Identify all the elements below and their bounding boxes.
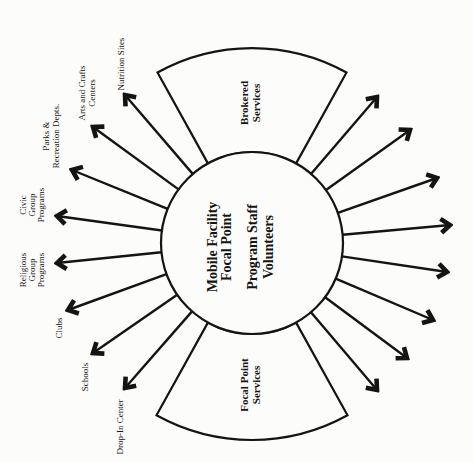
label-line: Centers — [87, 79, 97, 107]
service-diagram: Mobile Facility Focal Point Program Staf… — [0, 0, 473, 462]
label-parks-recreation: Parks & Recreation Depts. — [41, 104, 61, 168]
label-line: Recreation Depts. — [51, 104, 61, 168]
arrow-civic-group — [57, 216, 162, 231]
arrow-arts-crafts — [93, 127, 179, 189]
center-line-1: Mobile Facility — [205, 202, 220, 293]
wedge-bottom-line-2: Services — [250, 365, 262, 404]
arrow-right — [325, 297, 407, 358]
label-drop-in-center: Drop-In Center — [115, 399, 125, 454]
arrow-right — [338, 178, 437, 213]
label-line: Programs — [36, 252, 46, 287]
center-line-2: Focal Point — [219, 213, 234, 281]
label-schools: Schools — [80, 362, 90, 391]
arrow-right — [326, 130, 410, 190]
label-nutrition-sites: Nutrition Sites — [116, 37, 126, 90]
label-line: Arts and Crafts — [77, 65, 87, 120]
center-line-4: Volunteers — [261, 214, 276, 279]
label-line: Drop-In Center — [115, 399, 125, 454]
label-line: Nutrition Sites — [116, 37, 126, 90]
center-line-3: Program Staff — [245, 204, 260, 290]
arrow-clubs — [68, 274, 167, 310]
arrow-right — [336, 279, 433, 320]
brokered-services-label: Brokered Services — [238, 81, 262, 125]
wedge-top-line-2: Services — [250, 83, 262, 122]
wedge-bottom-line-1: Focal Point — [238, 358, 250, 412]
arrow-religious-group — [57, 252, 162, 263]
arrow-right — [342, 256, 447, 272]
wedge-top-line-1: Brokered — [238, 81, 250, 125]
label-civic-group-programs: Civic Group Programs — [18, 187, 46, 222]
label-religious-group-programs: Religious Group Programs — [18, 252, 46, 287]
label-line: Parks & — [41, 121, 51, 150]
arrow-parks-recreation — [72, 170, 168, 209]
label-line: Clubs — [54, 317, 64, 339]
arrow-right — [343, 225, 450, 235]
label-line: Schools — [80, 362, 90, 391]
label-arts-crafts-centers: Arts and Crafts Centers — [77, 65, 97, 120]
label-line: Programs — [36, 187, 46, 222]
focal-point-services-label: Focal Point Services — [238, 358, 262, 412]
label-clubs: Clubs — [54, 317, 64, 339]
